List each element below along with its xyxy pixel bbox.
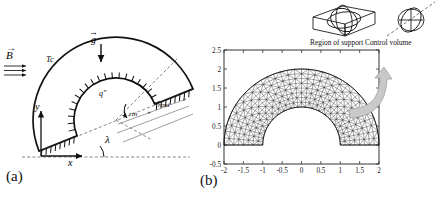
inner-wall-hatching [53, 58, 160, 138]
x-tick-label: 2 [377, 167, 381, 175]
gravity-arrow-accent: → [89, 27, 98, 37]
control-volume-label: Control volume [365, 38, 412, 47]
y-tick-label: -0.5 [210, 161, 222, 169]
y-tick-label: 1 [217, 104, 221, 112]
x-tick-label: 0.5 [316, 167, 325, 175]
region-of-support-icon [313, 4, 375, 37]
inner-radius-label: rin [129, 110, 138, 118]
x-tick-label: -0.5 [276, 167, 288, 175]
magnetic-field-lines [4, 66, 26, 75]
x-tick-label: 1 [338, 167, 342, 175]
y-tick-label: 2.5 [212, 47, 221, 55]
region-of-support-label: Region of support [310, 38, 364, 47]
panel-a-schematic: B → g → Tc q″ rin rout λ y x [0, 0, 200, 197]
annulus-outline [8, 12, 193, 151]
panel-b-label: (b) [200, 172, 218, 189]
x-tick-label: 1.5 [355, 167, 364, 175]
magnetic-field-arrow-accent: → [6, 42, 16, 53]
radial-dashed-line [116, 58, 178, 120]
x-axis-label: x [67, 157, 73, 168]
y-tick-label: 0.5 [212, 123, 221, 131]
heat-flux-label: q″ [99, 89, 107, 98]
outer-radius-label: rout [158, 101, 170, 109]
y-axis-label: y [34, 101, 40, 112]
x-tick-label: -1.5 [238, 167, 250, 175]
radius-dimension-lines [117, 99, 193, 142]
cold-temperature-label: Tc [46, 54, 54, 64]
panel-b-mesh: -2-1.5-1-0.500.511.52 -0.500.511.522.5 R… [197, 0, 437, 197]
inclination-angle-label: λ [104, 133, 110, 145]
control-volume-icon [397, 4, 426, 36]
y-tick-label: 1.5 [212, 85, 221, 93]
figure-root: B → g → Tc q″ rin rout λ y x -2-1.5-1-0.… [0, 0, 437, 197]
lambda-angle-arc [100, 146, 104, 157]
y-tick-label: 2 [217, 66, 221, 74]
x-tick-label: -1 [260, 167, 266, 175]
x-tick-label: 0 [300, 167, 304, 175]
y-tick-label: 0 [217, 142, 221, 150]
heat-flux-arc [124, 104, 127, 118]
x-tick-label: -2 [221, 167, 227, 175]
panel-a-label: (a) [6, 168, 23, 185]
